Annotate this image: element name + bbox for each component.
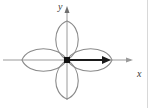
y-axis-arrowhead-icon [65, 6, 70, 13]
vector-arrowhead-icon [102, 56, 111, 64]
right-edge-rule [147, 0, 148, 108]
origin-point-marker [64, 57, 70, 63]
polar-rose-figure: y x [0, 0, 149, 108]
y-axis-group [65, 6, 70, 100]
x-axis-arrowhead-icon [126, 57, 133, 62]
positive-x-vector-arrow [67, 56, 111, 64]
y-axis-label: y [58, 2, 62, 12]
x-axis-label: x [137, 69, 141, 79]
rose-curve-plot [0, 0, 149, 108]
